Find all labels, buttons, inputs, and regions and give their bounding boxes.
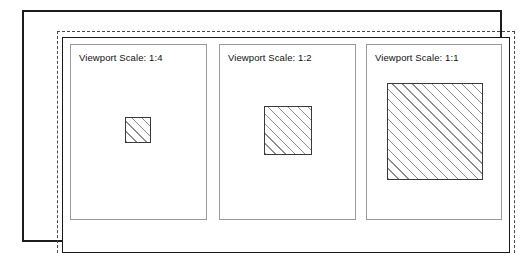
viewport-panel-1-2[interactable]: Viewport Scale: 1:2 bbox=[219, 44, 356, 220]
viewport-panel-1-1[interactable]: Viewport Scale: 1:1 bbox=[366, 44, 502, 220]
hatched-rectangle-half-scale bbox=[264, 106, 312, 155]
hatched-rectangle-full-scale bbox=[387, 83, 483, 180]
hatched-rectangle-quarter-scale bbox=[125, 117, 151, 143]
viewport-panel-label-1-2: Viewport Scale: 1:2 bbox=[228, 52, 312, 63]
viewport-panel-row: Viewport Scale: 1:4 Viewport Scale: 1:2 … bbox=[70, 44, 502, 220]
figure-outer-frame: Viewport Scale: 1:4 Viewport Scale: 1:2 … bbox=[22, 10, 502, 242]
viewport-panel-label-1-1: Viewport Scale: 1:1 bbox=[375, 52, 459, 63]
viewport-panel-label-1-4: Viewport Scale: 1:4 bbox=[79, 52, 163, 63]
viewport-panel-1-4[interactable]: Viewport Scale: 1:4 bbox=[70, 44, 207, 220]
